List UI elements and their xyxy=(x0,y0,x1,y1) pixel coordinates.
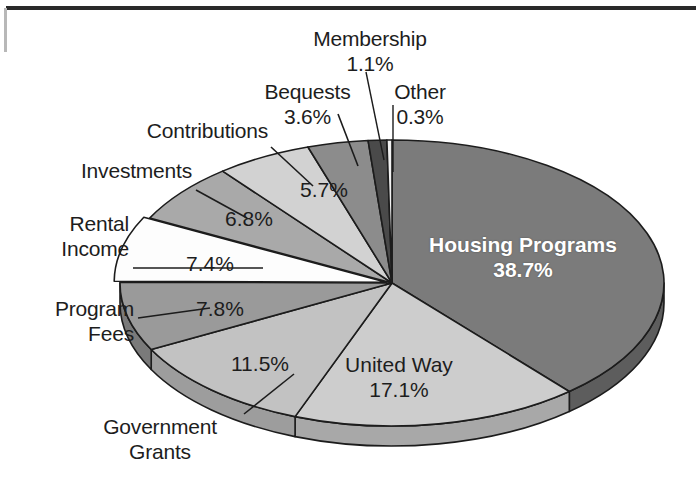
value-contributions: 5.7% xyxy=(300,177,348,202)
label-membership-name: Membership xyxy=(275,26,465,51)
label-rental-income-name-2: Income xyxy=(12,236,129,261)
label-contributions-name: Contributions xyxy=(100,118,268,143)
label-government-grants: Government Grants xyxy=(75,414,245,464)
label-united-way: United Way 17.1% xyxy=(334,352,464,402)
label-other-pct: 0.3% xyxy=(381,104,459,129)
label-rental-income: Rental Income xyxy=(12,211,129,261)
label-investments: Investments xyxy=(30,158,192,183)
value-rental-income: 7.4% xyxy=(186,251,234,276)
label-housing-programs: Housing Programs 38.7% xyxy=(420,232,626,282)
label-program-fees: Program Fees xyxy=(8,296,134,346)
label-program-fees-name-2: Fees xyxy=(8,321,134,346)
value-united-way: 17.1% xyxy=(334,377,464,402)
value-government-grants: 11.5% xyxy=(231,351,289,376)
label-other: Other 0.3% xyxy=(381,79,459,129)
label-investments-name: Investments xyxy=(30,158,192,183)
label-membership: Membership 1.1% xyxy=(275,26,465,76)
value-housing-programs: 38.7% xyxy=(420,257,626,282)
value-investments: 6.8% xyxy=(225,206,273,231)
label-government-grants-name-2: Grants xyxy=(75,439,245,464)
label-other-name: Other xyxy=(381,79,459,104)
pie-chart-figure: Membership 1.1% Bequests 3.6% Other 0.3%… xyxy=(0,0,696,484)
label-membership-pct: 1.1% xyxy=(275,51,465,76)
label-united-way-name: United Way xyxy=(334,352,464,377)
value-program-fees: 7.8% xyxy=(196,296,244,321)
label-program-fees-name-1: Program xyxy=(8,296,134,321)
label-housing-programs-name: Housing Programs xyxy=(420,232,626,257)
label-contributions: Contributions xyxy=(100,118,268,143)
label-rental-income-name-1: Rental xyxy=(12,211,129,236)
label-bequests-name: Bequests xyxy=(245,79,370,104)
label-government-grants-name-1: Government xyxy=(75,414,245,439)
